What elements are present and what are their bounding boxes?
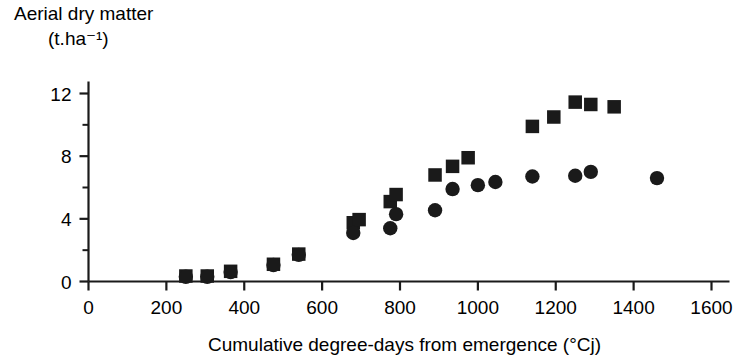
data-point-circle — [200, 270, 214, 284]
x-tick-label: 200 — [151, 297, 183, 318]
data-point-square — [568, 95, 582, 109]
data-point-circle — [389, 207, 403, 221]
data-point-square — [584, 98, 598, 112]
x-tick-label: 1400 — [612, 297, 654, 318]
data-point-circle — [584, 165, 598, 179]
data-point-circle — [471, 178, 485, 192]
data-point-circle — [445, 182, 459, 196]
scatter-plot: 0200400600800100012001400160004812 — [0, 0, 749, 364]
data-point-circle — [346, 226, 360, 240]
data-point-square — [461, 151, 475, 165]
series-circles — [179, 165, 665, 284]
data-point-square — [446, 160, 460, 174]
data-point-square — [547, 110, 561, 124]
x-axis-label: Cumulative degree-days from emergence (°… — [0, 334, 749, 356]
data-point-circle — [568, 169, 582, 183]
x-tick-label: 400 — [228, 297, 260, 318]
y-tick-label: 12 — [50, 84, 71, 105]
x-tick-label: 1600 — [690, 297, 732, 318]
data-point-circle — [488, 175, 502, 189]
x-tick-label: 0 — [83, 297, 94, 318]
x-tick-label: 600 — [306, 297, 338, 318]
data-point-square — [389, 188, 403, 202]
data-point-circle — [292, 248, 306, 262]
y-tick-label: 8 — [61, 146, 72, 167]
x-axis-label-text: Cumulative degree-days from emergence (°… — [148, 334, 601, 356]
data-point-circle — [223, 265, 237, 279]
data-point-circle — [179, 270, 193, 284]
data-point-circle — [383, 221, 397, 235]
series-squares — [179, 95, 621, 282]
x-tick-label: 1000 — [457, 297, 499, 318]
data-point-circle — [525, 169, 539, 183]
data-point-square — [352, 213, 366, 227]
data-point-square — [607, 100, 621, 114]
y-tick-label: 0 — [61, 272, 72, 293]
data-point-square — [428, 168, 442, 182]
data-point-circle — [650, 171, 664, 185]
chart-figure: Aerial dry matter (t.ha⁻¹) 0200400600800… — [0, 0, 749, 364]
x-tick-label: 800 — [384, 297, 416, 318]
y-tick-label: 4 — [61, 209, 72, 230]
data-point-circle — [266, 258, 280, 272]
x-tick-label: 1200 — [535, 297, 577, 318]
data-point-circle — [428, 203, 442, 217]
data-point-square — [526, 120, 540, 133]
